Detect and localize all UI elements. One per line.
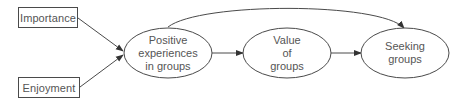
node-positive-experiences-label: Positive experiences in groups — [124, 28, 212, 78]
path-diagram: Importance Enjoyment Positive experience… — [0, 0, 464, 105]
node-enjoyment-label: Enjoyment — [23, 82, 76, 94]
label-line: Positive — [149, 34, 188, 47]
edge-enjoyment-to-positive — [80, 55, 123, 87]
edge-importance-to-positive — [78, 18, 123, 51]
label-line: experiences — [138, 47, 197, 60]
label-line: Value — [273, 34, 300, 47]
label-line: groups — [270, 60, 304, 73]
label-line: in groups — [145, 60, 190, 73]
node-importance-label: Importance — [20, 12, 76, 24]
edge-positive-to-seeking-arc — [168, 8, 404, 28]
node-enjoyment: Enjoyment — [18, 77, 80, 98]
node-importance: Importance — [18, 7, 78, 28]
node-seeking-groups-label: Seeking groups — [361, 28, 449, 78]
node-value-of-groups-label: Value of groups — [243, 28, 331, 78]
label-line: groups — [388, 53, 422, 66]
label-line: of — [282, 47, 291, 60]
label-line: Seeking — [385, 40, 425, 53]
